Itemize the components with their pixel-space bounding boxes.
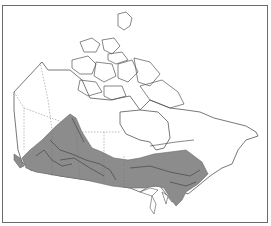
canada-map [0, 0, 271, 226]
arctic-islands [72, 12, 184, 108]
great-lakes [140, 188, 168, 214]
distribution-range [22, 114, 208, 206]
vancouver-island [14, 154, 24, 168]
